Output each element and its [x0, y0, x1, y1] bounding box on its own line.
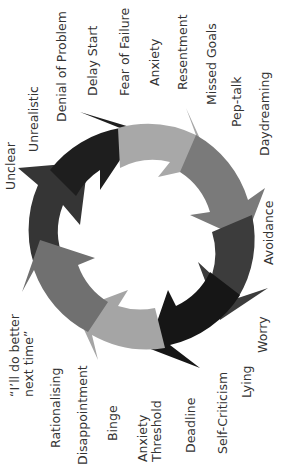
label-unrealistic: Unrealistic	[27, 86, 41, 152]
procrastination-cycle-diagram: Unclear Unrealistic Denial of Problem De…	[0, 0, 283, 465]
label-anxiety-threshold: Anxiety Threshold	[136, 400, 164, 462]
label-rationalising: Rationalising	[49, 368, 63, 448]
label-binge: Binge	[106, 405, 120, 441]
label-denial-of-problem: Denial of Problem	[55, 11, 69, 122]
label-resentment: Resentment	[176, 14, 190, 90]
label-fear-of-failure: Fear of Failure	[118, 8, 132, 96]
label-lying: Lying	[240, 365, 254, 398]
segment-black-bottom	[148, 272, 240, 368]
label-unclear: Unclear	[4, 142, 18, 190]
label-daydreaming: Daydreaming	[258, 72, 272, 156]
label-anxiety: Anxiety	[148, 39, 162, 86]
label-avoidance: Avoidance	[262, 201, 276, 265]
label-pep-talk: Pep-talk	[230, 76, 244, 127]
label-deadline: Deadline	[184, 398, 198, 453]
label-ill-do-better-next-time: “I’ll do better next time”	[8, 314, 36, 397]
label-worry: Worry	[256, 316, 270, 353]
label-delay-start: Delay Start	[86, 26, 100, 96]
label-self-criticism: Self-Criticism	[216, 372, 230, 454]
label-disappointment: Disappointment	[76, 365, 90, 465]
label-missed-goals: Missed Goals	[205, 23, 219, 105]
